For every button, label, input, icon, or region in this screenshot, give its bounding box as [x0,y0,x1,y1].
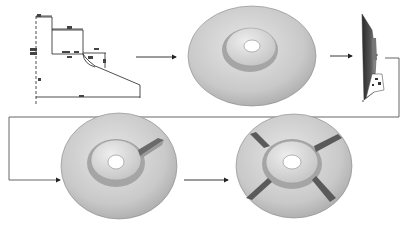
callout-label [372,84,374,86]
disc-one-rib [61,113,177,219]
center-hole [283,155,301,169]
dimension-label [62,51,70,53]
callout-label [378,82,381,85]
callout-label [375,78,378,80]
disc-four-ribs [236,114,352,218]
dimension-label [79,95,84,97]
point-marker [376,54,378,56]
dimension-label [38,78,41,81]
process-diagram [0,0,406,229]
profile-sketch [30,14,140,106]
side-section [362,14,384,102]
dimension-label [74,51,79,53]
dimension-labels [30,14,106,97]
dimension-label [30,52,37,55]
dimension-label [88,56,93,59]
dimension-label [67,26,72,29]
dimension-label [94,48,99,50]
center-hole [108,155,124,169]
hub-step [52,30,83,54]
dimension-label [37,14,41,17]
dimension-label [67,56,72,58]
dimension-label [30,48,37,51]
center-hole [244,40,260,52]
revolved-disc [188,6,316,106]
point-marker [362,100,364,102]
dimension-label [103,59,106,63]
